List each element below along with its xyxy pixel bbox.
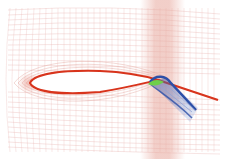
mesh-visualization — [0, 0, 225, 159]
cfd-mesh-figure — [0, 0, 225, 159]
